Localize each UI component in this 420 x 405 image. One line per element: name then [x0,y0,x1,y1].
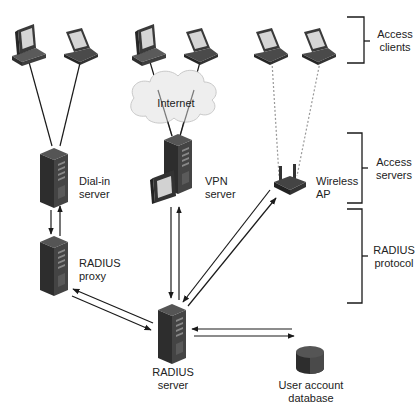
radius-protocol-label: RADIUS protocol [369,244,419,270]
laptop-client-3 [254,28,288,65]
dialin-server-icon [40,148,68,208]
access-clients-label: Access clients [372,28,418,54]
wireless-ap-icon [274,164,306,195]
radius-server-label: RADIUS server [146,366,200,392]
laptop-client-2 [184,28,218,65]
wireless-ap-label: Wireless AP [316,175,358,201]
laptop-client-1 [64,28,98,65]
internet-label: Internet [157,97,194,109]
radius-proxy-icon [40,236,68,296]
wireless-links [272,62,320,176]
dialin-server-label: Dial-in server [79,175,110,201]
vpn-server-label: VPN server [205,175,236,201]
brackets [347,17,370,303]
desktop-client-1 [12,24,46,66]
desktop-client-2 [132,24,166,66]
radius-proxy-label: RADIUS proxy [79,257,121,283]
access-servers-label: Access servers [370,156,418,182]
laptop-client-4 [302,28,336,65]
user-db-label: User account database [276,354,346,405]
radius-server-icon [158,304,186,364]
vpn-server-icon [150,134,192,204]
